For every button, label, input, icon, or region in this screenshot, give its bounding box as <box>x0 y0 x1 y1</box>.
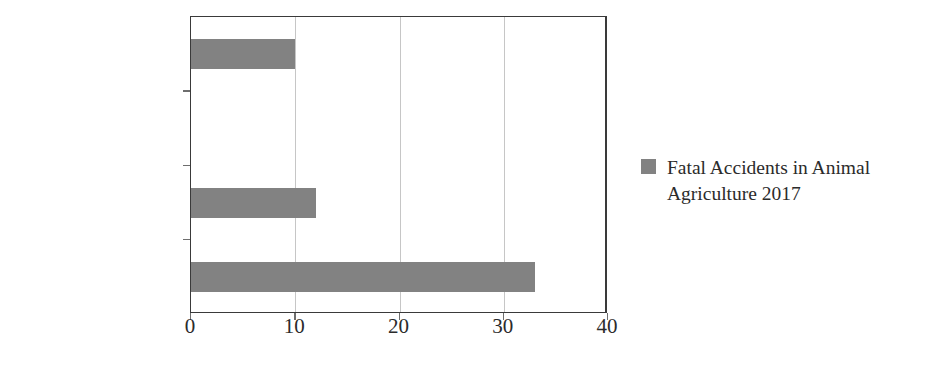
value-tick-label: 40 <box>577 316 637 337</box>
bar-row <box>191 240 605 314</box>
bar-chart: Equine (Horses)SwinePoultryDairy 0102030… <box>0 0 938 371</box>
legend-swatch-icon <box>641 159 656 174</box>
value-tick-label: 0 <box>160 316 220 337</box>
legend-label: Fatal Accidents in Animal Agriculture 20… <box>667 155 907 206</box>
plot-area <box>190 16 607 313</box>
bar-row <box>191 17 605 91</box>
value-tick-label: 30 <box>473 316 533 337</box>
bar-row <box>191 166 605 240</box>
value-tick-label: 10 <box>264 316 324 337</box>
bar <box>191 262 535 292</box>
bar-row <box>191 91 605 165</box>
value-tick-label: 20 <box>369 316 429 337</box>
bar <box>191 188 316 218</box>
category-tick <box>183 239 190 240</box>
category-tick <box>183 90 190 91</box>
chart-legend: Fatal Accidents in Animal Agriculture 20… <box>641 155 907 206</box>
bar <box>191 39 295 69</box>
category-tick <box>183 165 190 166</box>
